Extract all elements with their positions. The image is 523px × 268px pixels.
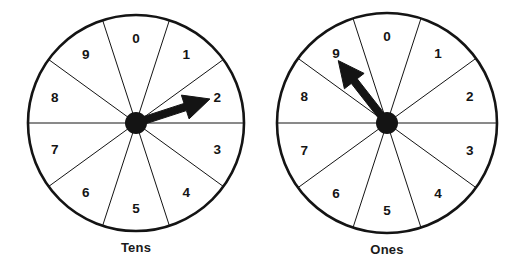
ones-wheel-caption: Ones xyxy=(263,242,511,257)
ones-sector-number-9: 9 xyxy=(332,46,340,61)
tens-sector-number-7: 7 xyxy=(51,142,59,157)
ones-sector-number-8: 8 xyxy=(301,89,309,104)
tens-sector-number-9: 9 xyxy=(82,47,90,62)
spinners-figure: 0123456789 Tens 0123456789 Ones xyxy=(0,0,523,268)
tens-hub[interactable] xyxy=(125,112,147,134)
ones-hub[interactable] xyxy=(376,112,398,134)
tens-wheel-caption: Tens xyxy=(14,240,258,255)
ones-spinner[interactable]: 0123456789 Ones xyxy=(263,0,511,268)
ones-spinner-graphic: 0123456789 xyxy=(263,0,511,247)
ones-sector-number-1: 1 xyxy=(434,46,442,61)
tens-sector-number-6: 6 xyxy=(82,185,90,200)
tens-sector-number-0: 0 xyxy=(132,31,140,46)
ones-sector-number-7: 7 xyxy=(301,143,309,158)
tens-sector-number-5: 5 xyxy=(132,201,140,216)
tens-sector-number-2: 2 xyxy=(213,90,221,105)
ones-sector-number-3: 3 xyxy=(466,143,474,158)
tens-spinner[interactable]: 0123456789 Tens xyxy=(14,0,258,268)
tens-spinner-graphic: 0123456789 xyxy=(14,1,258,245)
tens-sector-number-1: 1 xyxy=(182,47,190,62)
ones-sector-number-0: 0 xyxy=(383,29,391,44)
ones-sector-number-2: 2 xyxy=(466,89,474,104)
ones-sector-number-4: 4 xyxy=(434,186,442,201)
tens-sector-number-4: 4 xyxy=(182,185,190,200)
tens-sector-number-8: 8 xyxy=(51,90,59,105)
tens-sector-number-3: 3 xyxy=(213,142,221,157)
ones-sector-number-6: 6 xyxy=(332,186,340,201)
ones-sector-number-5: 5 xyxy=(383,203,391,218)
